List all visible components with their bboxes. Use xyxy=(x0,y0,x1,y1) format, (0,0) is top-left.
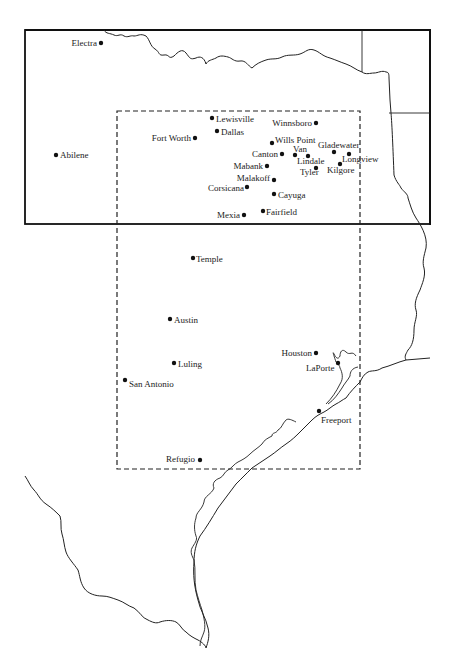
city-label-luling: Luling xyxy=(178,359,202,369)
city-label-tyler: Tyler xyxy=(300,167,319,177)
city-label-kilgore: Kilgore xyxy=(327,165,355,175)
city-dot-mabank xyxy=(265,164,269,168)
city-markers xyxy=(54,41,351,462)
city-label-fairfield: Fairfield xyxy=(266,207,297,217)
rio-grande-border xyxy=(25,476,206,648)
city-dot-wills-point xyxy=(270,141,274,145)
city-dot-gladewater xyxy=(332,150,336,154)
city-dot-refugio xyxy=(198,458,202,462)
city-dot-canton xyxy=(280,152,284,156)
city-label-winnsboro: Winnsboro xyxy=(272,118,312,128)
city-label-cayuga: Cayuga xyxy=(278,190,306,200)
city-label-laporte: LaPorte xyxy=(306,363,335,373)
city-label-mexia: Mexia xyxy=(217,210,240,220)
city-dot-cayuga xyxy=(272,192,276,196)
city-dot-temple xyxy=(191,256,195,260)
city-label-lewisville: Lewisville xyxy=(216,114,254,124)
city-label-abilene: Abilene xyxy=(60,150,89,160)
city-label-san-antonio: San Antonio xyxy=(129,379,174,389)
city-label-houston: Houston xyxy=(281,348,312,358)
city-dot-laporte xyxy=(336,361,340,365)
city-dot-abilene xyxy=(54,153,58,157)
city-dot-dallas xyxy=(215,129,219,133)
gulf-coast-upper xyxy=(194,360,406,648)
city-dot-freeport xyxy=(317,409,321,413)
texas-locator-map: Electra Abilene Lewisville Dallas Fort W… xyxy=(0,0,454,671)
city-label-dallas: Dallas xyxy=(221,127,244,137)
city-dot-mexia xyxy=(242,213,246,217)
gulf-coast-bays xyxy=(191,350,358,646)
red-river-border xyxy=(104,30,389,78)
city-dot-electra xyxy=(99,41,103,45)
city-label-mabank: Mabank xyxy=(234,161,264,171)
city-dot-san-antonio xyxy=(123,378,127,382)
city-label-van: Van xyxy=(293,144,307,154)
city-dot-houston xyxy=(314,351,318,355)
city-dot-fairfield xyxy=(261,209,265,213)
city-labels: Electra Abilene Lewisville Dallas Fort W… xyxy=(60,38,379,464)
city-label-temple: Temple xyxy=(196,254,223,264)
sabine-river-border xyxy=(389,78,430,360)
city-dot-luling xyxy=(172,361,176,365)
city-dot-austin xyxy=(168,317,172,321)
city-dot-lewisville xyxy=(210,116,214,120)
city-label-longview: Longview xyxy=(342,154,379,164)
city-dot-winnsboro xyxy=(314,121,318,125)
city-label-freeport: Freeport xyxy=(321,415,352,425)
city-label-electra: Electra xyxy=(72,38,97,48)
city-dot-fort-worth xyxy=(193,136,197,140)
city-dot-corsicana xyxy=(245,185,249,189)
city-dot-malakoff xyxy=(272,178,276,182)
city-label-malakoff: Malakoff xyxy=(237,173,270,183)
city-label-canton: Canton xyxy=(252,149,278,159)
city-label-austin: Austin xyxy=(174,315,199,325)
city-label-lindale: Lindale xyxy=(297,156,325,166)
city-label-gladewater: Gladewater xyxy=(318,140,359,150)
city-label-refugio: Refugio xyxy=(166,454,195,464)
city-label-fort-worth: Fort Worth xyxy=(152,133,192,143)
city-label-corsicana: Corsicana xyxy=(208,183,244,193)
